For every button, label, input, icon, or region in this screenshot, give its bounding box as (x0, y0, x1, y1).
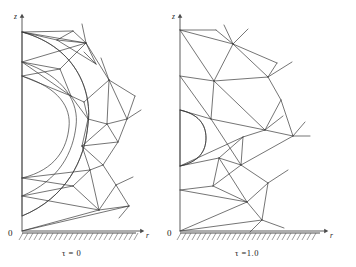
figure-svg: z r 0 τ = 0 (0, 0, 356, 267)
ground-hatch-left (19, 233, 138, 240)
ground-hatch-right (177, 233, 320, 240)
z-axis-label-left: z (13, 12, 17, 21)
cavity-region-right (180, 110, 206, 166)
cavity-region-left (22, 32, 89, 216)
r-axis-label-left: r (146, 231, 149, 240)
origin-label-left: 0 (8, 228, 13, 238)
origin-label-right: 0 (167, 228, 172, 238)
figure-container: z r 0 τ = 0 (0, 0, 356, 267)
panel-tau-1: z r 0 τ =1.0 (167, 12, 333, 258)
caption-tau-0: τ = 0 (62, 248, 81, 258)
panel-tau-0: z r 0 τ = 0 (8, 12, 149, 258)
r-axis-label-right: r (330, 231, 333, 240)
caption-tau-1: τ =1.0 (235, 248, 259, 258)
z-axis-label-right: z (171, 12, 175, 21)
